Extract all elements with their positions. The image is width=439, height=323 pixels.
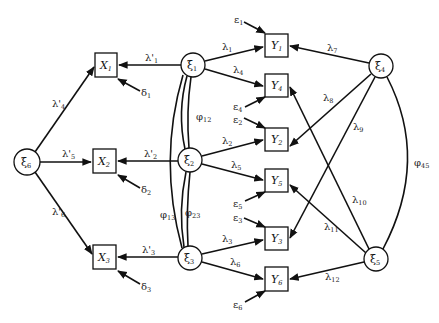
label-eps-5: ε5: [233, 198, 242, 211]
label-lambda-prime-6: λ'6: [52, 206, 65, 219]
edge-xi2-y2: [202, 140, 263, 156]
error-eps1-arrow: [244, 22, 265, 33]
label-lambda-prime-3: λ'3: [142, 244, 155, 257]
node-y5: Y5: [265, 169, 288, 192]
node-y6: Y6: [265, 267, 288, 291]
label-lambda-prime-4: λ'4: [52, 98, 65, 111]
label-lambda-8: λ8: [323, 92, 333, 105]
label-phi-45: φ45: [414, 157, 429, 170]
label-lambda-prime-5: λ'5: [62, 148, 75, 161]
node-xi1: ξ1: [181, 53, 205, 77]
arc-phi45: [383, 77, 408, 249]
label-lambda-5: λ5: [231, 159, 241, 172]
edge-xi3-y3: [202, 240, 263, 254]
label-eps-1: ε1: [234, 14, 243, 27]
label-delta-1: δ1: [141, 87, 151, 100]
label-eps-2: ε2: [233, 114, 242, 127]
error-eps5-arrow: [245, 192, 265, 201]
label-lambda-prime-1: λ'1: [145, 52, 158, 65]
node-y2: Y2: [265, 128, 288, 151]
label-lambda-9: λ9: [353, 121, 363, 134]
error-delta1-arrow: [118, 79, 140, 91]
label-delta-3: δ3: [141, 281, 151, 294]
node-y4: Y4: [265, 74, 288, 97]
node-xi2: ξ2: [178, 148, 202, 172]
label-lambda-4: λ4: [233, 64, 243, 77]
error-eps6-arrow: [245, 291, 265, 302]
label-lambda-7: λ7: [327, 42, 337, 55]
label-lambda-3: λ3: [222, 233, 232, 246]
node-x3: X3: [93, 245, 116, 269]
error-eps3-arrow: [244, 218, 265, 227]
label-lambda-2: λ2: [222, 135, 232, 148]
label-phi-12: φ12: [196, 111, 211, 124]
label-lambda-10: λ10: [352, 194, 367, 207]
covariance-arcs: [170, 75, 407, 249]
arc-phi12-a: [181, 76, 187, 149]
node-xi4: ξ4: [369, 54, 393, 78]
label-eps-6: ε6: [233, 299, 242, 312]
label-lambda-prime-2: λ'2: [144, 148, 157, 161]
label-lambda-6: λ6: [230, 256, 240, 269]
error-eps2-arrow: [244, 118, 265, 128]
label-lambda-1: λ1: [222, 41, 232, 54]
label-eps-4: ε4: [233, 101, 242, 114]
edge-xi1-y1: [205, 47, 263, 61]
label-lambda-12: λ12: [325, 271, 340, 284]
label-delta-2: δ2: [141, 184, 151, 197]
node-y1: Y1: [265, 34, 288, 57]
error-delta3-arrow: [118, 271, 140, 284]
node-xi3: ξ3: [178, 246, 202, 270]
error-delta2-arrow: [118, 175, 140, 188]
path-diagram: X1 X2 X3 Y1 Y4 Y2 Y5 Y3 Y6 ξ1 ξ2: [0, 0, 439, 323]
label-eps-3: ε3: [233, 212, 242, 225]
node-xi5: ξ5: [364, 247, 388, 271]
arc-phi12-b: [188, 77, 191, 148]
node-y3: Y3: [265, 227, 288, 250]
node-x2: X2: [93, 149, 116, 173]
node-x1: X1: [95, 53, 117, 77]
node-xi6: ξ6: [14, 149, 40, 175]
edge-xi4-y2: [290, 74, 371, 146]
error-eps4-arrow: [245, 97, 265, 107]
label-phi-13: φ13: [160, 209, 175, 222]
